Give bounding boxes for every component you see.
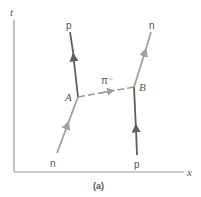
label-proton-out-left: p (66, 20, 72, 31)
proton-out-left: p (66, 20, 78, 97)
label-neutron-in-left: n (50, 158, 56, 169)
neutron-out-right: n (134, 20, 155, 87)
label-pion: π⁻ (101, 75, 113, 86)
axes: t x (10, 6, 192, 178)
x-axis-label: x (186, 166, 192, 178)
label-proton-in-right: p (134, 159, 140, 170)
feynman-diagram: t x n p π⁻ p n A B (a) (0, 0, 201, 197)
pion-exchange: π⁻ (78, 75, 134, 97)
proton-in-right: p (134, 87, 140, 170)
t-axis-label: t (10, 6, 14, 18)
neutron-in-left: n (50, 97, 78, 169)
vertex-a-label: A (64, 91, 72, 103)
vertex-b-label: B (139, 81, 146, 93)
figure-caption: (a) (93, 181, 104, 191)
label-neutron-out-right: n (149, 20, 155, 31)
